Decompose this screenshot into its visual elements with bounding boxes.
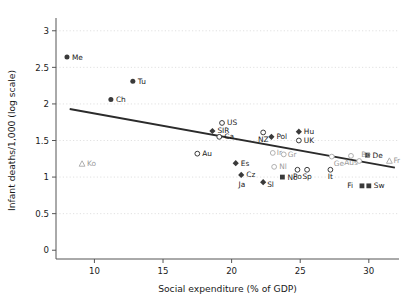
marker-Au <box>195 151 200 156</box>
data-point: Tu <box>130 77 146 86</box>
point-label-Pol: Pol <box>276 132 287 141</box>
y-tick-label: 3 <box>44 26 49 36</box>
point-label-Tu: Tu <box>137 77 146 86</box>
point-label-Sw: Sw <box>374 181 385 190</box>
marker-Me <box>64 55 69 60</box>
point-label-Nl: Nl <box>279 162 287 171</box>
marker-Hu <box>296 129 302 135</box>
marker-Es <box>233 160 239 166</box>
data-point: It <box>328 167 333 181</box>
data-point: NZ <box>258 130 269 144</box>
data-point: Fi <box>347 181 364 190</box>
point-label-No: No <box>287 173 298 182</box>
x-tick-label: 20 <box>226 266 237 276</box>
marker-Ko <box>79 161 85 166</box>
point-label-NZ: NZ <box>258 135 269 144</box>
y-tick-label: 2 <box>44 99 49 109</box>
point-label-Es: Es <box>241 159 250 168</box>
marker-Ch <box>108 97 113 102</box>
data-point: Ir <box>270 148 283 157</box>
point-label-Cz: Cz <box>246 170 255 179</box>
data-point: Es <box>233 159 250 168</box>
point-label-Ge: Ge <box>334 159 345 168</box>
data-point: Nl <box>272 162 287 171</box>
y-tick-label: 1.5 <box>35 136 49 146</box>
marker-Ir <box>270 151 275 156</box>
marker-Ca <box>217 134 222 139</box>
point-label-Au: Au <box>202 149 212 158</box>
marker-UK <box>296 138 301 143</box>
y-axis-title: Infant deaths/1,000 (log scale) <box>6 70 17 211</box>
point-label-Ko: Ko <box>87 159 96 168</box>
data-point: UK <box>296 136 314 145</box>
point-label-Ch: Ch <box>116 95 126 104</box>
data-point: Ja <box>238 180 246 189</box>
data-point: Hu <box>296 127 315 136</box>
data-point: Au <box>195 149 212 158</box>
x-tick-label: 25 <box>295 266 306 276</box>
point-label-Gr: Gr <box>288 150 298 159</box>
marker-US <box>220 121 225 126</box>
point-label-Aus: Aus <box>344 158 358 167</box>
point-label-Ca: Ca <box>224 132 234 141</box>
marker-Gr <box>281 152 286 157</box>
point-label-Me: Me <box>72 53 83 62</box>
data-point: Sp <box>302 167 312 181</box>
data-point: Ch <box>108 95 126 104</box>
marker-Fi <box>360 183 365 188</box>
marker-Sw <box>366 183 371 188</box>
marker-Sl <box>260 179 266 185</box>
data-point: Ko <box>79 159 96 168</box>
data-point: Me <box>64 53 83 62</box>
scatter-plot-figure: 00.511.522.531015202530Social expenditur… <box>0 0 405 301</box>
point-label-De: De <box>372 151 383 160</box>
y-tick-label: 0 <box>44 245 49 255</box>
marker-Tu <box>130 79 135 84</box>
y-tick-label: 0.5 <box>35 209 49 219</box>
marker-No <box>280 175 285 180</box>
y-tick-label: 2.5 <box>35 63 49 73</box>
point-label-Fi: Fi <box>347 181 353 190</box>
data-point: Fr <box>386 156 401 165</box>
x-tick-label: 10 <box>89 266 100 276</box>
data-point: Gr <box>281 150 297 159</box>
marker-Be <box>357 159 362 164</box>
plot-canvas: 00.511.522.531015202530Social expenditur… <box>0 0 405 301</box>
x-tick-label: 30 <box>363 266 374 276</box>
data-point: Pol <box>268 132 287 141</box>
point-label-Sl: Sl <box>267 180 274 189</box>
marker-Nl <box>272 164 277 169</box>
point-label-UK: UK <box>304 136 314 145</box>
point-label-Be: Be <box>361 150 371 159</box>
point-label-Sp: Sp <box>302 172 312 181</box>
marker-Fr <box>386 158 392 163</box>
data-point: Sl <box>260 179 274 189</box>
data-point: Cz <box>238 170 255 179</box>
point-label-It: It <box>328 172 333 181</box>
y-tick-label: 1 <box>44 172 49 182</box>
x-axis-title: Social expenditure (% of GDP) <box>158 283 297 294</box>
marker-SIR <box>209 128 215 134</box>
marker-Pol <box>268 134 274 140</box>
data-point: Sw <box>366 181 384 190</box>
data-point: No <box>280 173 298 182</box>
point-label-Ja: Ja <box>238 180 246 189</box>
data-point: Aus <box>344 153 358 167</box>
x-tick-label: 15 <box>158 266 169 276</box>
point-label-Hu: Hu <box>304 127 315 136</box>
point-label-Fr: Fr <box>393 156 401 165</box>
